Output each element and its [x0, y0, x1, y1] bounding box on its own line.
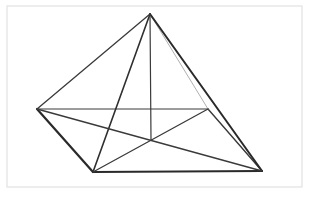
figure-canvas: Square Pyramid Wireframe Line drawing of… — [0, 0, 310, 197]
pyramid-wireframe-svg: Square Pyramid Wireframe Line drawing of… — [0, 0, 310, 197]
base-edge-right-front — [93, 171, 262, 172]
canvas-background — [0, 0, 310, 197]
